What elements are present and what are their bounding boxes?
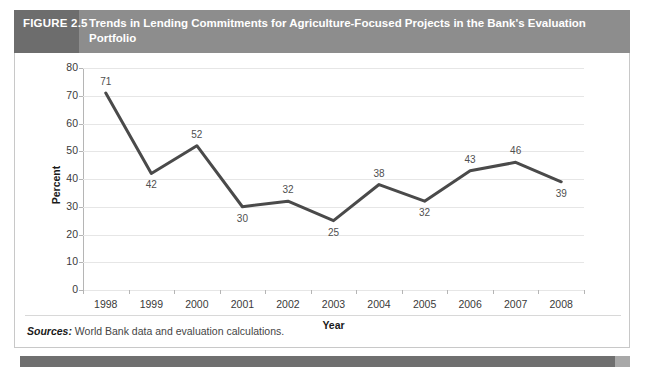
data-point-label: 71 xyxy=(91,76,121,87)
bottom-decorative-bar xyxy=(20,356,630,367)
source-note: Sources: World Bank data and evaluation … xyxy=(27,325,284,337)
x-axis-tick-label: 2000 xyxy=(174,298,220,310)
data-point-label: 42 xyxy=(136,179,166,190)
data-point-label: 43 xyxy=(455,154,485,165)
source-label: Sources: xyxy=(27,325,72,337)
y-axis-tick-label: 60 xyxy=(48,117,78,129)
x-axis-tick xyxy=(493,290,494,294)
y-axis-tick-label: 80 xyxy=(48,61,78,73)
x-axis-tick-label: 2001 xyxy=(219,298,265,310)
x-axis-tick xyxy=(265,290,266,294)
plot-region: 01020304050607080 1998199920002001200220… xyxy=(83,68,584,290)
figure-number-label: FIGURE 2.5 xyxy=(14,10,79,53)
bottom-bar-light-segment xyxy=(615,356,630,367)
y-axis-tick-label: 20 xyxy=(48,228,78,240)
x-axis-tick xyxy=(402,290,403,294)
data-point-label: 30 xyxy=(227,213,257,224)
y-axis-tick-label: 30 xyxy=(48,200,78,212)
figure-body: Percent Year 01020304050607080 199819992… xyxy=(14,53,630,348)
y-axis-tick-label: 0 xyxy=(48,283,78,295)
x-axis-tick-label: 2002 xyxy=(265,298,311,310)
bottom-bar-dark-segment xyxy=(20,356,615,367)
y-axis-tick-label: 10 xyxy=(48,255,78,267)
data-point-label: 38 xyxy=(364,168,394,179)
x-axis-tick xyxy=(129,290,130,294)
y-axis-tick-label: 70 xyxy=(48,89,78,101)
chart-area: Percent Year 01020304050607080 199819992… xyxy=(15,53,631,315)
x-axis-tick xyxy=(83,290,84,294)
figure-container: FIGURE 2.5 Trends in Lending Commitments… xyxy=(0,0,649,382)
x-axis-tick-label: 1998 xyxy=(83,298,129,310)
y-axis-tick-label: 40 xyxy=(48,172,78,184)
y-axis-tick-label: 50 xyxy=(48,144,78,156)
x-axis-tick xyxy=(356,290,357,294)
x-axis-tick xyxy=(447,290,448,294)
x-axis-tick xyxy=(174,290,175,294)
x-axis-tick-label: 2005 xyxy=(402,298,448,310)
data-point-label: 46 xyxy=(501,145,531,156)
data-point-label: 52 xyxy=(182,129,212,140)
source-text: World Bank data and evaluation calculati… xyxy=(72,325,284,337)
figure-header-band: FIGURE 2.5 Trends in Lending Commitments… xyxy=(14,10,630,53)
x-axis-tick xyxy=(311,290,312,294)
x-axis-tick-label: 2008 xyxy=(538,298,584,310)
x-axis-tick-label: 2007 xyxy=(493,298,539,310)
data-point-label: 39 xyxy=(546,188,576,199)
x-axis-tick xyxy=(584,290,585,294)
data-point-label: 32 xyxy=(273,184,303,195)
x-axis-tick xyxy=(220,290,221,294)
source-divider xyxy=(25,315,621,316)
x-axis-tick-label: 2004 xyxy=(356,298,402,310)
gridline xyxy=(83,290,584,291)
data-point-label: 32 xyxy=(410,207,440,218)
x-axis-tick-label: 1999 xyxy=(128,298,174,310)
x-axis-tick-label: 2006 xyxy=(447,298,493,310)
data-point-label: 25 xyxy=(319,227,349,238)
x-axis-tick xyxy=(538,290,539,294)
figure-title: Trends in Lending Commitments for Agricu… xyxy=(79,10,630,53)
x-axis-tick-label: 2003 xyxy=(311,298,357,310)
